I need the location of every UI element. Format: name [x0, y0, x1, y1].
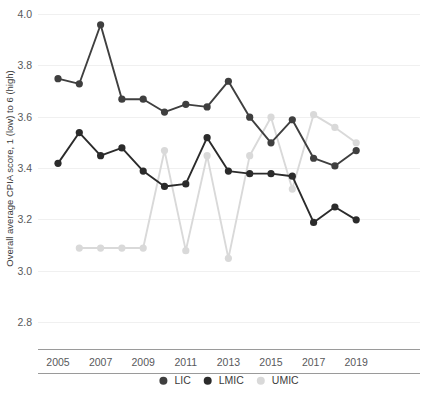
legend-label-umic: UMIC — [272, 374, 299, 386]
x-axis-tick-labels: 20052007200920112013201520172019 — [46, 356, 368, 368]
data-point-lic-2006 — [76, 80, 83, 87]
y-tick-label: 3.8 — [17, 59, 32, 71]
data-point-lic-2005 — [54, 75, 61, 82]
data-point-lmic-2016 — [289, 173, 296, 180]
data-point-lmic-2011 — [182, 180, 189, 187]
x-tick-label: 2013 — [217, 356, 241, 368]
data-point-umic-2014 — [246, 152, 253, 159]
data-point-lic-2008 — [118, 96, 125, 103]
data-point-lmic-2006 — [76, 129, 83, 136]
chart-canvas: 2.83.03.23.43.63.84.0 Overall average CP… — [0, 0, 433, 406]
chart-legend: LICLMICUMIC — [159, 374, 299, 386]
data-point-umic-2007 — [97, 244, 104, 251]
data-point-lic-2016 — [289, 116, 296, 123]
data-point-lmic-2019 — [353, 216, 360, 223]
legend-label-lmic: LMIC — [219, 374, 245, 386]
data-point-umic-2012 — [204, 152, 211, 159]
data-point-lmic-2015 — [267, 170, 274, 177]
data-point-umic-2009 — [140, 244, 147, 251]
data-point-lic-2013 — [225, 78, 232, 85]
data-point-umic-2015 — [267, 114, 274, 121]
data-point-lic-2018 — [331, 162, 338, 169]
data-point-lmic-2018 — [331, 203, 338, 210]
data-point-umic-2017 — [310, 111, 317, 118]
y-tick-label: 3.4 — [17, 162, 32, 174]
series-line-umic — [79, 115, 356, 259]
data-point-lic-2019 — [353, 147, 360, 154]
data-point-umic-2010 — [161, 147, 168, 154]
y-axis-title-text: Overall average CPIA score, 1 (low) to 6… — [4, 70, 15, 266]
x-tick-label: 2015 — [259, 356, 283, 368]
data-point-lmic-2005 — [54, 160, 61, 167]
data-point-umic-2019 — [353, 139, 360, 146]
series-line-lic — [58, 25, 356, 166]
data-point-lic-2007 — [97, 21, 104, 28]
data-point-lmic-2014 — [246, 170, 253, 177]
data-point-lmic-2010 — [161, 183, 168, 190]
y-tick-label: 4.0 — [17, 8, 32, 20]
y-tick-label: 2.8 — [17, 316, 32, 328]
legend-swatch-umic — [257, 377, 265, 385]
x-tick-label: 2009 — [132, 356, 156, 368]
y-axis-title: Overall average CPIA score, 1 (low) to 6… — [4, 70, 15, 266]
data-point-umic-2011 — [182, 247, 189, 254]
legend-swatch-lmic — [204, 377, 212, 385]
cpia-line-chart: 2.83.03.23.43.63.84.0 Overall average CP… — [0, 0, 433, 406]
data-point-lmic-2009 — [140, 167, 147, 174]
x-tick-label: 2011 — [175, 356, 198, 368]
data-point-lic-2009 — [140, 96, 147, 103]
data-point-umic-2006 — [76, 244, 83, 251]
data-point-lmic-2013 — [225, 167, 232, 174]
data-point-lic-2014 — [246, 114, 253, 121]
legend-label-lic: LIC — [174, 374, 191, 386]
data-point-lic-2017 — [310, 155, 317, 162]
y-axis-tick-labels: 2.83.03.23.43.63.84.0 — [17, 8, 32, 328]
data-point-lmic-2008 — [118, 144, 125, 151]
x-tick-label: 2017 — [302, 356, 326, 368]
data-point-umic-2018 — [331, 124, 338, 131]
y-tick-label: 3.0 — [17, 265, 32, 277]
data-point-lic-2010 — [161, 108, 168, 115]
y-tick-label: 3.2 — [17, 213, 32, 225]
x-tick-label: 2019 — [345, 356, 369, 368]
data-point-lic-2012 — [204, 103, 211, 110]
data-point-umic-2008 — [118, 244, 125, 251]
legend-swatch-lic — [159, 377, 167, 385]
series-line-lmic — [58, 133, 356, 223]
series-plot-area — [54, 21, 359, 262]
x-tick-label: 2007 — [89, 356, 113, 368]
data-point-lmic-2007 — [97, 152, 104, 159]
data-point-lic-2015 — [267, 139, 274, 146]
data-point-lmic-2017 — [310, 219, 317, 226]
x-tick-label: 2005 — [46, 356, 70, 368]
data-point-umic-2013 — [225, 255, 232, 262]
data-point-umic-2016 — [289, 185, 296, 192]
y-tick-label: 3.6 — [17, 111, 32, 123]
data-point-lmic-2012 — [204, 134, 211, 141]
data-point-lic-2011 — [182, 101, 189, 108]
